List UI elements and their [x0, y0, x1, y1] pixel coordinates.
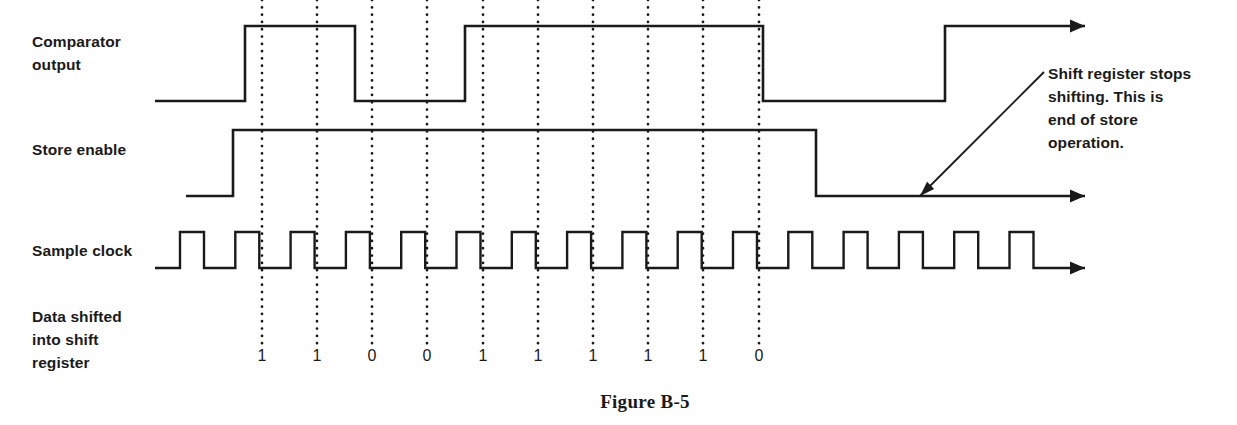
figure-caption: Figure B-5 — [600, 391, 690, 412]
data-bit-value: 1 — [589, 347, 598, 364]
store-enable-arrowhead — [1070, 190, 1085, 203]
timing-diagram-figure: Comparator output Store enable Sample cl… — [0, 0, 1237, 425]
data-bit-value: 1 — [313, 347, 322, 364]
row-labels: Comparator output Store enable Sample cl… — [32, 33, 133, 371]
annotation-text-block: Shift register stops shifting. This is e… — [1048, 65, 1191, 151]
data-bit-value: 0 — [368, 347, 377, 364]
label-comparator-output-line1: Comparator — [32, 33, 121, 50]
sample-clock-trace — [155, 232, 1085, 268]
data-bit-value: 1 — [479, 347, 488, 364]
data-bit-value: 0 — [423, 347, 432, 364]
sample-clock-arrowhead — [1070, 262, 1085, 275]
label-data-shifted-line2: into shift — [32, 331, 98, 348]
data-bit-values: 1100111110 — [258, 347, 764, 364]
label-comparator-output-line2: output — [32, 56, 81, 73]
data-bit-value: 0 — [755, 347, 764, 364]
data-bit-value: 1 — [534, 347, 543, 364]
waveform-sample-clock — [155, 232, 1085, 275]
comparator-output-trace — [155, 26, 1085, 101]
label-data-shifted-line3: register — [32, 354, 90, 371]
annotation-line2: shifting. This is — [1048, 88, 1163, 105]
annotation-line1: Shift register stops — [1048, 65, 1191, 82]
annotation-leader — [920, 72, 1044, 196]
data-bit-value: 1 — [258, 347, 267, 364]
annotation-leader-line — [920, 72, 1044, 196]
comparator-output-arrowhead — [1070, 20, 1085, 33]
annotation-line3: end of store — [1048, 111, 1138, 128]
data-bit-value: 1 — [644, 347, 653, 364]
dotted-guide-lines — [262, 0, 759, 345]
label-sample-clock: Sample clock — [32, 242, 133, 259]
store-enable-trace — [186, 130, 1085, 196]
waveform-comparator-output — [155, 20, 1085, 102]
label-store-enable: Store enable — [32, 141, 127, 158]
annotation-line4: operation. — [1048, 134, 1124, 151]
timing-diagram-canvas: Comparator output Store enable Sample cl… — [0, 0, 1237, 425]
label-data-shifted-line1: Data shifted — [32, 308, 122, 325]
data-bit-value: 1 — [699, 347, 708, 364]
